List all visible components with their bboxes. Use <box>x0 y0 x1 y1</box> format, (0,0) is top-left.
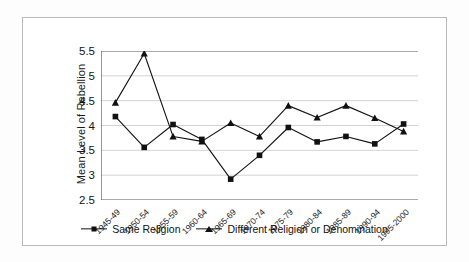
y-tick-label: 4.5 <box>79 95 95 107</box>
legend-item-same-religion: Same Religion <box>81 223 180 235</box>
legend-label-same-religion: Same Religion <box>112 223 180 235</box>
data-point-square <box>401 121 407 127</box>
data-point-square <box>141 145 147 151</box>
data-point-square <box>257 153 263 159</box>
data-point-square <box>113 114 119 120</box>
y-tick-label: 5.5 <box>79 45 95 57</box>
y-tick-label: 5 <box>89 70 95 82</box>
data-point-triangle <box>227 119 234 126</box>
data-point-square <box>372 141 378 147</box>
legend-label-different-religion: Different Religion or Denomination <box>227 223 387 235</box>
data-point-triangle <box>342 102 349 109</box>
data-point-triangle <box>400 128 407 135</box>
legend-marker-square-icon <box>81 224 107 234</box>
series-line-2 <box>115 53 403 141</box>
legend-marker-triangle-icon <box>196 224 222 234</box>
y-tick-label: 3.5 <box>79 144 95 156</box>
data-point-square <box>314 139 320 145</box>
screenshot-root: Mean Level of Rebellion 2.533.544.555.5 … <box>0 0 469 262</box>
data-point-triangle <box>112 99 119 106</box>
legend-item-different-religion: Different Religion or Denomination <box>196 223 387 235</box>
y-tick-label: 4 <box>89 120 95 132</box>
data-point-triangle <box>285 102 292 109</box>
data-point-square <box>170 122 176 128</box>
y-tick-label: 3 <box>89 169 95 181</box>
data-point-triangle <box>371 114 378 121</box>
data-point-triangle <box>141 51 148 57</box>
data-point-triangle <box>314 114 321 121</box>
y-tick-label: 2.5 <box>79 194 95 206</box>
data-point-square <box>228 176 234 182</box>
chart-legend: Same Religion Different Religion or Deno… <box>23 223 446 235</box>
series-line-1 <box>115 117 403 180</box>
chart-figure-frame: Mean Level of Rebellion 2.533.544.555.5 … <box>22 17 447 246</box>
data-point-square <box>286 125 292 131</box>
data-point-square <box>343 134 349 140</box>
data-point-triangle <box>169 133 176 140</box>
plot-area: Mean Level of Rebellion 2.533.544.555.5 … <box>101 51 418 200</box>
chart-plot-svg <box>101 51 418 200</box>
